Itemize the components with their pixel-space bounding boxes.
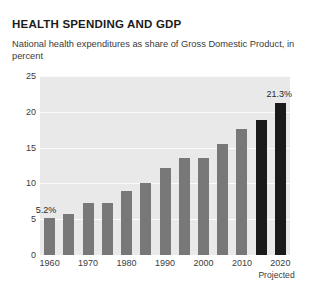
y-axis-tick-15: 15	[2, 144, 36, 153]
y-axis-tick-25: 25	[2, 72, 36, 81]
bar-value-label-1960: 5.2%	[36, 206, 57, 215]
bar-2005	[217, 144, 228, 255]
bar-1985	[140, 183, 151, 255]
x-axis-tick-2010: 2010	[224, 258, 260, 268]
bar-1960	[44, 218, 55, 255]
y-axis: 0510152025	[0, 76, 36, 255]
x-axis: 1960197019801990200020102020Projected	[40, 258, 290, 292]
bar-1995	[179, 158, 190, 255]
bar-1990	[160, 168, 171, 255]
bar-2010	[236, 129, 247, 255]
x-axis-tick-1980: 1980	[109, 258, 145, 268]
chart-subtitle: National health expenditures as share of…	[12, 38, 300, 62]
x-axis-tick-1990: 1990	[147, 258, 183, 268]
bar-1975	[102, 203, 113, 255]
y-axis-tick-20: 20	[2, 108, 36, 117]
x-axis-tick-2020: 2020	[262, 258, 298, 268]
bar-2015	[256, 120, 267, 255]
bars-layer: 5.2%21.3%	[40, 76, 290, 255]
bar-1965	[63, 214, 74, 255]
x-axis-tick-1970: 1970	[70, 258, 106, 268]
chart-figure: HEALTH SPENDING AND GDP National health …	[0, 0, 309, 302]
bar-2020	[275, 103, 286, 256]
bar-2000	[198, 158, 209, 255]
x-axis-tick-1960: 1960	[32, 258, 68, 268]
y-axis-tick-10: 10	[2, 179, 36, 188]
bar-1980	[121, 191, 132, 255]
bar-1970	[83, 203, 94, 255]
projected-note: Projected	[258, 270, 294, 280]
chart-title: HEALTH SPENDING AND GDP	[12, 18, 181, 30]
bar-value-label-2020: 21.3%	[266, 90, 292, 99]
y-axis-tick-5: 5	[2, 215, 36, 224]
x-axis-tick-2000: 2000	[185, 258, 221, 268]
